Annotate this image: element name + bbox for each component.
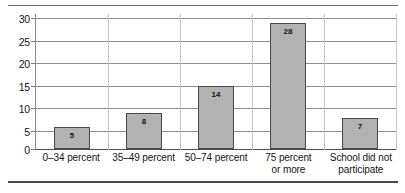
bar-slot: 8 [108, 14, 180, 150]
bar: 5 [54, 127, 90, 150]
top-divider-rule [8, 5, 398, 6]
bar-series: 5 8 14 28 [36, 14, 396, 150]
x-label-0-34-percent: 0–34 percent [35, 152, 107, 176]
x-axis-labels: 0–34 percent 35–49 percent 50–74 percent… [35, 152, 397, 176]
bar: 28 [270, 23, 306, 149]
x-label-line: 75 percent [252, 152, 324, 164]
bar-slot: 5 [36, 14, 108, 150]
bottom-divider-rule [8, 181, 398, 183]
bar: 14 [198, 86, 234, 149]
x-label-75-percent-or-more: 75 percent or more [252, 152, 324, 176]
y-tick-label: 5 [0, 127, 30, 137]
bar: 8 [126, 113, 162, 149]
y-tick-label: 25 [0, 37, 30, 47]
bar-slot: 28 [252, 14, 324, 150]
bar-value-label: 28 [271, 27, 305, 36]
bar-value-label: 7 [343, 122, 377, 131]
x-label-line: School did not [325, 152, 397, 164]
x-label-line: 0–34 percent [35, 152, 107, 164]
bar-chart-figure: 30 25 20 15 10 5 0 [0, 0, 405, 193]
y-tick-label: 20 [0, 59, 30, 69]
bar: 7 [342, 118, 378, 150]
x-label-school-did-not-participate: School did not participate [325, 152, 397, 176]
x-label-line: 35–49 percent [107, 152, 179, 164]
x-label-line: or more [252, 164, 324, 176]
y-tick-label: 10 [0, 104, 30, 114]
bar-slot: 14 [180, 14, 252, 150]
plot-wrapper: 30 25 20 15 10 5 0 [0, 14, 405, 154]
x-label-line: 50–74 percent [180, 152, 252, 164]
y-tick-label: 15 [0, 82, 30, 92]
y-tick-label: 0 [0, 145, 30, 155]
x-label-35-49-percent: 35–49 percent [107, 152, 179, 176]
bar-value-label: 8 [127, 117, 161, 126]
y-tick-label: 30 [0, 14, 30, 24]
y-axis: 30 25 20 15 10 5 0 [0, 14, 30, 150]
bar-slot: 7 [324, 14, 396, 150]
bar-value-label: 14 [199, 90, 233, 99]
x-label-50-74-percent: 50–74 percent [180, 152, 252, 176]
plot-area: 5 8 14 28 [35, 14, 397, 150]
bar-value-label: 5 [55, 131, 89, 140]
x-label-line: participate [325, 164, 397, 176]
